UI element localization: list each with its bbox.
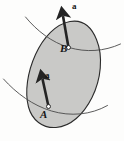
point-label-b: B <box>60 43 68 54</box>
figure-canvas <box>0 0 124 141</box>
rigid-body-outline <box>27 21 101 127</box>
physics-figure: a B a A <box>0 0 124 141</box>
vector-label-a-bottom: a <box>45 71 50 80</box>
vector-label-a-top: a <box>72 2 77 11</box>
point-label-a: A <box>40 109 48 120</box>
